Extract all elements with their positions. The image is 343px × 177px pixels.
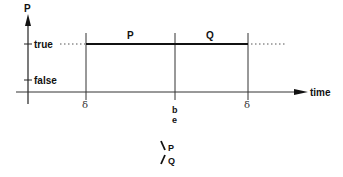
x-axis: time bbox=[16, 87, 331, 98]
segment-label-p: P bbox=[127, 30, 134, 41]
legend-label-q: Q bbox=[168, 156, 175, 166]
legend-label-p: P bbox=[168, 143, 174, 153]
y-axis: P true false bbox=[24, 3, 57, 104]
y-tick-false: false bbox=[34, 75, 57, 86]
marker-b: b bbox=[172, 105, 178, 115]
y-tick-true: true bbox=[34, 39, 53, 50]
marker-delta-right: δ bbox=[244, 99, 250, 110]
y-axis-arrow-icon bbox=[25, 14, 31, 26]
legend-backslash-icon bbox=[161, 141, 165, 150]
segment-label-q: Q bbox=[206, 30, 214, 41]
marker-e: e bbox=[172, 115, 177, 125]
legend-slash-icon bbox=[161, 155, 165, 164]
legend: P Q bbox=[161, 141, 175, 166]
x-axis-arrow-icon bbox=[294, 89, 308, 95]
timing-diagram: P true false time P Q δ b e δ P Q bbox=[0, 0, 343, 177]
marker-delta-left: δ bbox=[82, 99, 88, 110]
x-axis-label: time bbox=[310, 87, 331, 98]
y-axis-label: P bbox=[24, 3, 31, 14]
